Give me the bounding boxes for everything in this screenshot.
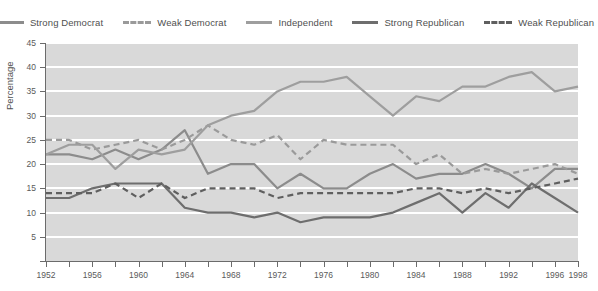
x-tick	[92, 262, 93, 267]
y-tick-label: 45	[14, 38, 36, 48]
y-tick	[40, 43, 45, 44]
y-tick	[40, 261, 45, 262]
y-tick	[40, 188, 45, 189]
x-tick	[532, 262, 533, 267]
x-tick-label: 1992	[489, 270, 529, 280]
legend-label: Strong Republican	[384, 17, 464, 28]
y-tick-label: 20	[14, 159, 36, 169]
legend-item-weak-democrat[interactable]: Weak Democrat	[123, 17, 226, 28]
y-tick-label: 10	[14, 208, 36, 218]
x-tick	[46, 262, 47, 267]
x-tick-label: 1972	[257, 270, 297, 280]
x-tick	[462, 262, 463, 267]
y-tick-label: 30	[14, 111, 36, 121]
legend-label: Weak Republican	[518, 17, 594, 28]
x-tick	[347, 262, 348, 267]
x-tick	[231, 262, 232, 267]
y-tick-label: 5	[14, 232, 36, 242]
x-tick-label: 1964	[165, 270, 205, 280]
x-tick-label: 1998	[558, 270, 598, 280]
x-tick-label: 1976	[304, 270, 344, 280]
x-tick-label: 1984	[396, 270, 436, 280]
plot-area	[46, 43, 578, 261]
x-tick	[277, 262, 278, 267]
x-tick	[485, 262, 486, 267]
x-tick	[509, 262, 510, 267]
y-tick	[40, 116, 45, 117]
x-tick-label: 1968	[211, 270, 251, 280]
legend-item-strong-democrat[interactable]: Strong Democrat	[0, 17, 103, 28]
legend-swatch-dashed-line-icon	[123, 21, 151, 24]
x-tick	[115, 262, 116, 267]
legend-label: Independent	[278, 17, 332, 28]
x-tick	[208, 262, 209, 267]
legend-label: Weak Democrat	[157, 17, 226, 28]
x-tick-label: 1988	[442, 270, 482, 280]
legend-swatch-dashed-line-icon	[484, 21, 512, 24]
x-tick-label: 1980	[350, 270, 390, 280]
y-tick	[40, 237, 45, 238]
y-tick-label: 15	[14, 183, 36, 193]
y-tick-label: 40	[14, 62, 36, 72]
x-tick	[578, 262, 579, 267]
x-tick	[439, 262, 440, 267]
y-tick	[40, 140, 45, 141]
x-tick	[370, 262, 371, 267]
x-tick	[185, 262, 186, 267]
x-tick	[162, 262, 163, 267]
legend-item-strong-republican[interactable]: Strong Republican	[352, 17, 464, 28]
legend-swatch-solid-line-icon	[0, 21, 24, 24]
series-lines	[46, 43, 578, 261]
x-tick-label: 1956	[72, 270, 112, 280]
legend-item-independent[interactable]: Independent	[246, 17, 332, 28]
legend-item-weak-republican[interactable]: Weak Republican	[484, 17, 594, 28]
x-tick-label: 1952	[26, 270, 66, 280]
series-line-weak-democrat	[46, 125, 578, 173]
x-tick	[69, 262, 70, 267]
y-tick	[40, 164, 45, 165]
x-tick-label: 1960	[119, 270, 159, 280]
y-axis-line	[45, 43, 46, 262]
x-axis-line	[45, 261, 579, 262]
x-tick	[416, 262, 417, 267]
y-tick	[40, 67, 45, 68]
legend-label: Strong Democrat	[30, 17, 103, 28]
x-tick	[555, 262, 556, 267]
x-tick	[139, 262, 140, 267]
x-tick	[324, 262, 325, 267]
legend-swatch-solid-line-icon	[352, 21, 378, 24]
x-tick	[393, 262, 394, 267]
y-tick	[40, 213, 45, 214]
x-tick	[300, 262, 301, 267]
y-tick	[40, 91, 45, 92]
chart-legend: Strong DemocratWeak DemocratIndependentS…	[0, 14, 592, 30]
x-tick	[254, 262, 255, 267]
y-tick-label: 25	[14, 135, 36, 145]
legend-swatch-solid-line-icon	[246, 21, 272, 24]
y-tick-label: 35	[14, 86, 36, 96]
